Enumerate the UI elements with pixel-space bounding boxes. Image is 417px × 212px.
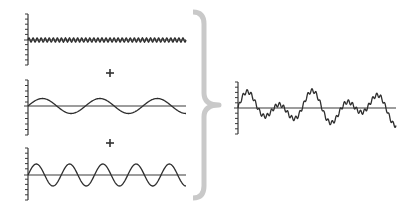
component-high-frequency	[24, 14, 186, 65]
waveform-summation-diagram	[0, 0, 417, 212]
composite-waveform	[234, 82, 396, 134]
plus-operator-2	[106, 139, 114, 147]
component-mid-frequency	[24, 148, 186, 200]
curly-brace	[193, 12, 219, 198]
sine-wave	[28, 38, 186, 42]
component-low-frequency	[24, 80, 186, 135]
plus-operator-1	[106, 69, 114, 77]
